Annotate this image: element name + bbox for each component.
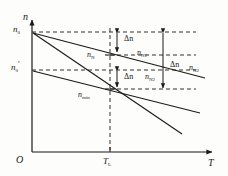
annotation-n-N: nN bbox=[87, 51, 95, 59]
figure-canvas: n T O n0 n0′ TL nN nmin Δn nN1 Δn nN2 Δn… bbox=[0, 0, 228, 176]
y-tick-n0p-base: n bbox=[11, 62, 16, 72]
annotation-delta-n-right-subscript: N2 bbox=[193, 68, 199, 73]
annotation-delta-n-top: Δn bbox=[124, 35, 133, 43]
x-tick-label-TL: TL bbox=[103, 157, 111, 166]
origin-label: O bbox=[16, 155, 23, 165]
y-tick-n0p-prime: ′ bbox=[18, 60, 20, 69]
diagram-svg bbox=[0, 0, 228, 176]
annotation-n-N-sub: N bbox=[91, 55, 95, 60]
y-tick-n0-sub: 0 bbox=[18, 30, 21, 35]
y-axis-label: n bbox=[23, 12, 28, 22]
annotation-delta-n-top-delta: Δn bbox=[124, 34, 133, 43]
annotation-n-min: nmin bbox=[78, 91, 90, 99]
annotation-delta-n-mid-sub-group: nN2 bbox=[145, 73, 155, 81]
annotation-n-min-sub: min bbox=[82, 95, 90, 100]
annotation-delta-n-right-delta: Δn bbox=[170, 60, 179, 69]
curve-steep-from-n0 bbox=[33, 33, 182, 134]
x-tick-TL-sub: L bbox=[108, 162, 111, 167]
annotation-delta-n-mid-delta: Δn bbox=[124, 72, 133, 81]
y-tick-label-n0: n0 bbox=[13, 25, 20, 34]
x-axis-label: T bbox=[208, 158, 214, 168]
annotation-delta-n-right-sub-group: nN2 bbox=[189, 64, 199, 72]
annotation-delta-n-top-subscript: N1 bbox=[141, 53, 147, 58]
characteristic-curves bbox=[33, 33, 205, 134]
annotation-delta-n-top-sub-group: nN1 bbox=[137, 49, 147, 57]
annotation-delta-n-mid-subscript: N2 bbox=[149, 77, 155, 82]
curve-shallow-from-n0 bbox=[33, 33, 205, 78]
y-tick-n0-base: n bbox=[13, 24, 18, 34]
annotation-delta-n-right: Δn bbox=[170, 61, 179, 69]
annotation-delta-n-mid: Δn bbox=[124, 73, 133, 81]
y-tick-label-n0-prime: n0′ bbox=[11, 63, 20, 72]
